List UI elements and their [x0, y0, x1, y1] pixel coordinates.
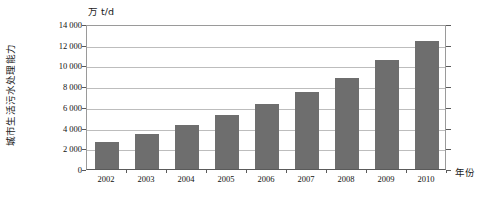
- x-axis-title: 年份: [455, 165, 475, 179]
- x-axis-tick-label: 2008: [326, 174, 366, 184]
- x-axis-tick-mark: [246, 170, 247, 173]
- y-axis-tick-label: 14 000: [36, 20, 82, 30]
- x-axis-tick-label: 2010: [406, 174, 446, 184]
- x-axis-tick-mark: [326, 170, 327, 173]
- x-axis-tick-label: 2004: [166, 174, 206, 184]
- y-axis-tick-mark-right: [446, 66, 451, 67]
- x-axis-tick-label: 2007: [286, 174, 326, 184]
- x-axis-tick-mark: [206, 170, 207, 173]
- y-axis-unit-label: 万 t/d: [88, 4, 114, 18]
- bar: [335, 78, 360, 169]
- y-axis-tick-label: 0: [36, 165, 82, 175]
- x-axis-tick-mark: [286, 170, 287, 173]
- y-axis-tick-mark: [82, 108, 86, 109]
- bar: [415, 41, 440, 169]
- x-axis-tick-label: 2006: [246, 174, 286, 184]
- x-axis-tick-mark: [406, 170, 407, 173]
- y-axis-tick-mark-right: [446, 25, 451, 26]
- y-axis-tick-label: 2 000: [36, 144, 82, 154]
- y-axis-tick-mark: [82, 46, 86, 47]
- y-axis-tick-label: 8 000: [36, 82, 82, 92]
- y-axis-tick-label: 6 000: [36, 103, 82, 113]
- bar: [255, 104, 280, 169]
- x-axis-tick-mark: [166, 170, 167, 173]
- bar: [175, 125, 200, 169]
- bar: [375, 60, 400, 169]
- bar: [295, 92, 320, 169]
- bar-chart: 城市生活污水处理能力 万 t/d 02 0004 0006 0008 00010…: [0, 0, 491, 208]
- y-axis-title-text: 城市生活污水处理能力: [3, 44, 17, 146]
- x-axis-tick-label: 2009: [366, 174, 406, 184]
- y-axis-tick-mark: [82, 170, 86, 171]
- y-axis-tick-label: 4 000: [36, 124, 82, 134]
- x-axis-tick-label: 2005: [206, 174, 246, 184]
- bar: [95, 142, 120, 169]
- x-axis-tick-label: 2003: [126, 174, 166, 184]
- y-axis-tick-mark-right: [446, 108, 451, 109]
- y-axis-tick-label: 10 000: [36, 61, 82, 71]
- bars-layer: [87, 26, 445, 169]
- x-axis-tick-mark: [446, 170, 447, 173]
- y-axis-tick-mark-right: [446, 129, 451, 130]
- x-axis-tick-mark: [366, 170, 367, 173]
- x-axis-tick-label: 2002: [86, 174, 126, 184]
- bar: [135, 134, 160, 169]
- plot-area: [86, 25, 446, 170]
- y-axis-tick-mark: [82, 66, 86, 67]
- y-axis-tick-mark: [82, 25, 86, 26]
- y-axis-tick-mark-right: [446, 87, 451, 88]
- y-axis-title: 城市生活污水处理能力: [0, 0, 20, 190]
- y-axis-tick-mark: [82, 149, 86, 150]
- y-axis-tick-mark-right: [446, 46, 451, 47]
- bar: [215, 115, 240, 169]
- y-axis-tick-mark: [82, 129, 86, 130]
- y-axis-tick-label: 12 000: [36, 41, 82, 51]
- x-axis-tick-mark: [126, 170, 127, 173]
- y-axis-tick-mark: [82, 87, 86, 88]
- y-axis-tick-mark-right: [446, 149, 451, 150]
